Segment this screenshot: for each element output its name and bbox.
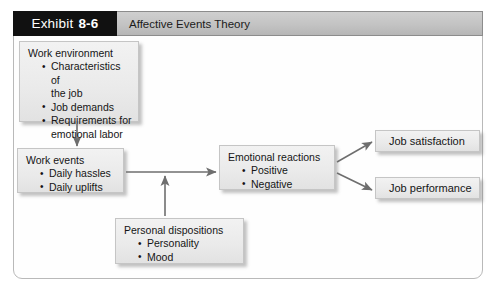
affective-events-theory-diagram: Work environment Characteristics of the … — [0, 0, 496, 290]
node-title: Emotional reactions — [228, 151, 328, 164]
node-title: Personal dispositions — [124, 224, 237, 237]
node-bullet-list: Positive Negative — [228, 164, 328, 191]
list-item: Positive — [242, 164, 328, 178]
list-item: Requirements for — [42, 114, 132, 128]
node-title: Work environment — [28, 47, 132, 60]
node-title: Job performance — [389, 182, 472, 195]
list-item: Daily hassles — [40, 167, 117, 181]
list-item-continuation: emotional labor — [42, 128, 132, 142]
node-personal-dispositions: Personal dispositions Personality Mood — [115, 218, 244, 264]
list-item-continuation: the job — [42, 87, 132, 101]
list-item: Personality — [138, 237, 237, 251]
node-bullet-list: Personality Mood — [124, 237, 237, 264]
list-item: Mood — [138, 251, 237, 265]
node-title: Work events — [26, 154, 117, 167]
arrow-reactions-to-job-satisfaction — [337, 142, 372, 162]
node-title: Job satisfaction — [389, 135, 465, 148]
node-bullet-list: Daily hassles Daily uplifts — [26, 167, 117, 194]
list-item: Characteristics of — [42, 60, 132, 87]
node-job-satisfaction: Job satisfaction — [375, 130, 480, 152]
list-item: Daily uplifts — [40, 181, 117, 195]
list-item: Negative — [242, 178, 328, 192]
node-emotional-reactions: Emotional reactions Positive Negative — [219, 145, 335, 190]
node-bullet-list: Characteristics of the job Job demands R… — [28, 60, 132, 141]
node-job-performance: Job performance — [375, 177, 480, 199]
node-work-environment: Work environment Characteristics of the … — [19, 41, 139, 122]
arrow-reactions-to-job-performance — [337, 173, 372, 190]
node-work-events: Work events Daily hassles Daily uplifts — [17, 148, 124, 193]
list-item: Job demands — [42, 101, 132, 115]
